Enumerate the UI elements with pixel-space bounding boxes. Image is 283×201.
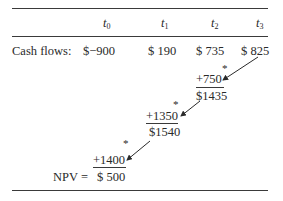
arrows-layer [0, 0, 283, 201]
arrow-icon-1 [223, 57, 258, 80]
arrow-icon-3 [127, 141, 150, 160]
arrow-icon-2 [181, 101, 200, 116]
